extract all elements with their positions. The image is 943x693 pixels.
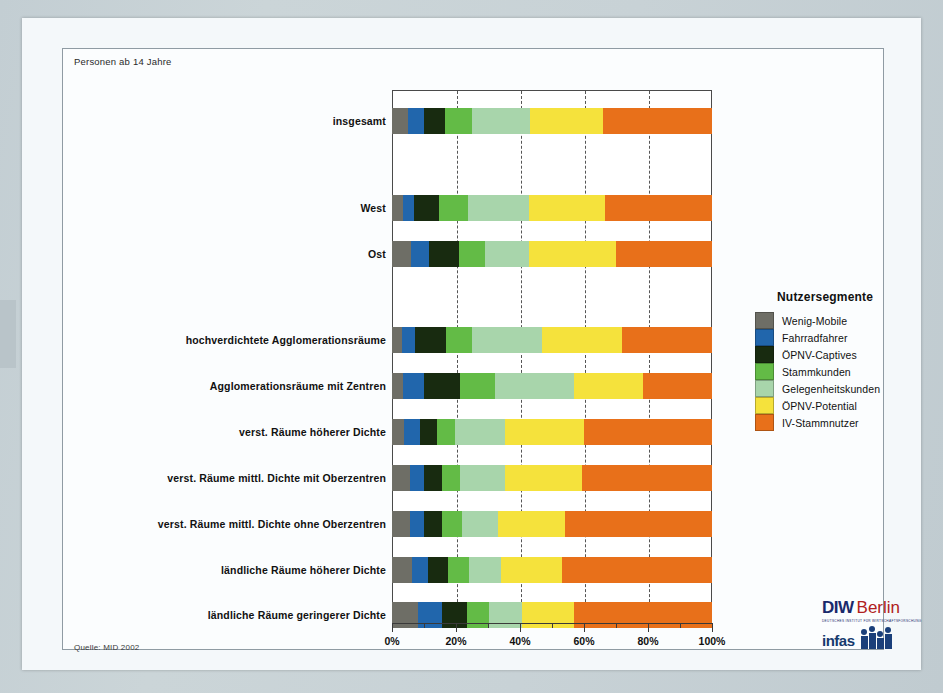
bar-row	[392, 557, 712, 583]
bar-segment	[392, 195, 403, 221]
bar-segment	[424, 373, 461, 399]
bar-segment	[442, 602, 467, 628]
x-tick-minor	[680, 623, 681, 628]
bar-segment	[495, 373, 573, 399]
bar-segment	[442, 511, 462, 537]
bar-segment	[392, 327, 402, 353]
x-axis-tick-label: 100%	[699, 635, 726, 647]
bar-segment	[410, 511, 424, 537]
bar-segment	[411, 241, 429, 267]
bar-segment	[392, 373, 403, 399]
legend-item: ÖPNV-Potential	[755, 397, 915, 414]
category-label: verst. Räume mittl. Dichte ohne Oberzent…	[56, 518, 386, 530]
bar-segment	[402, 327, 415, 353]
legend-color-swatch	[755, 363, 774, 380]
x-axis-tick-label: 80%	[637, 635, 658, 647]
category-label: ländliche Räume höherer Dichte	[56, 564, 386, 576]
bar-segment	[460, 373, 495, 399]
bar-segment	[462, 511, 498, 537]
bar-segment	[574, 602, 712, 628]
source-note: Quelle: MID 2002	[74, 643, 139, 652]
x-tick-major	[584, 623, 585, 632]
bar-segment	[485, 241, 529, 267]
bar-segment	[445, 108, 472, 134]
bar-segment	[565, 511, 712, 537]
category-label: insgesamt	[56, 115, 386, 127]
legend-color-swatch	[755, 397, 774, 414]
bar-segment	[403, 373, 424, 399]
x-tick-minor	[488, 623, 489, 628]
diw-tagline: DEUTSCHES INSTITUT FÜR WIRTSCHAFTSFORSCH…	[822, 619, 922, 623]
legend-title: Nutzersegmente	[777, 290, 915, 304]
legend-label: ÖPNV-Potential	[782, 400, 857, 412]
bar-segment	[420, 419, 437, 445]
x-tick-minor	[552, 623, 553, 628]
bar-segment	[530, 108, 604, 134]
bar-segment	[584, 419, 712, 445]
legend-color-swatch	[755, 414, 774, 431]
x-axis-tick-label: 40%	[509, 635, 530, 647]
bar-row	[392, 195, 712, 221]
bar-row	[392, 373, 712, 399]
bar-segment	[414, 195, 439, 221]
bar-segment	[469, 557, 501, 583]
bar-segment	[467, 602, 489, 628]
legend-item: Fahrradfahrer	[755, 329, 915, 346]
chart-page: Personen ab 14 Jahre Quelle: MID 2002 0%…	[22, 18, 921, 670]
category-label: Agglomerationsräume mit Zentren	[56, 380, 386, 392]
bar-segment	[410, 465, 423, 491]
publisher-logo: DIW Berlin DEUTSCHES INSTITUT FÜR WIRTSC…	[822, 598, 922, 660]
bar-segment	[472, 108, 530, 134]
bar-row	[392, 465, 712, 491]
legend-item: Wenig-Mobile	[755, 312, 915, 329]
bar-segment	[522, 602, 574, 628]
bar-segment	[439, 195, 468, 221]
legend: Nutzersegmente Wenig-MobileFahrradfahrer…	[755, 290, 915, 431]
bar-segment	[459, 241, 485, 267]
legend-label: Gelegenheitskunden	[782, 383, 880, 395]
bar-segment	[392, 465, 410, 491]
bar-segment	[437, 419, 455, 445]
legend-label: IV-Stammnutzer	[782, 417, 859, 429]
bar-segment	[415, 327, 446, 353]
category-label: West	[56, 202, 386, 214]
bar-segment	[542, 327, 622, 353]
bar-segment	[392, 511, 410, 537]
bar-segment	[418, 602, 442, 628]
berlin-wordmark: Berlin	[857, 598, 900, 618]
x-tick-major	[648, 623, 649, 632]
bar-segment	[404, 419, 421, 445]
x-axis-tick-label: 60%	[573, 635, 594, 647]
bar-segment	[448, 557, 469, 583]
x-tick-minor	[424, 623, 425, 628]
bar-segment	[392, 419, 404, 445]
bar-row	[392, 511, 712, 537]
bar-segment	[605, 195, 712, 221]
category-label: verst. Räume höherer Dichte	[56, 426, 386, 438]
category-label: Ost	[56, 248, 386, 260]
bar-segment	[505, 465, 582, 491]
bar-segment	[622, 327, 712, 353]
bar-row	[392, 108, 712, 134]
bar-segment	[424, 108, 445, 134]
legend-rows: Wenig-MobileFahrradfahrerÖPNV-CaptivesSt…	[755, 312, 915, 431]
x-axis-tick-label: 0%	[384, 635, 399, 647]
legend-item: ÖPNV-Captives	[755, 346, 915, 363]
bar-segment	[428, 557, 448, 583]
bar-segment	[412, 557, 428, 583]
legend-color-swatch	[755, 346, 774, 363]
category-label: ländliche Räume geringerer Dichte	[56, 609, 386, 621]
bar-segment	[529, 195, 605, 221]
chart-subtitle: Personen ab 14 Jahre	[74, 56, 171, 67]
x-tick-minor	[616, 623, 617, 628]
bar-segment	[574, 373, 644, 399]
bar-segment	[582, 465, 712, 491]
legend-label: Stammkunden	[782, 366, 851, 378]
x-axis-tick-label: 20%	[445, 635, 466, 647]
bar-row	[392, 327, 712, 353]
bar-segment	[424, 511, 442, 537]
category-label: hochverdichtete Agglomerationsräume	[56, 334, 386, 346]
diw-wordmark: DIW	[822, 598, 854, 618]
x-tick-major	[520, 623, 521, 632]
bar-segment	[424, 465, 442, 491]
